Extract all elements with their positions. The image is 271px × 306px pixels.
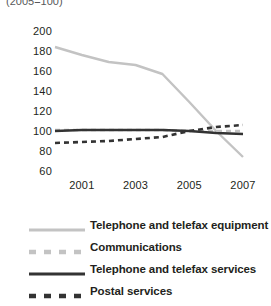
legend-item: Communications <box>0 236 271 258</box>
legend-item: Postal services <box>0 280 271 302</box>
legend-label: Telephone and telefax services <box>90 263 256 275</box>
light-dashed-swatch <box>29 243 85 252</box>
chart-container: (2005=100) 6080100120140160180200 200120… <box>0 0 271 306</box>
series-line <box>55 47 243 157</box>
chart-subtitle: (2005=100) <box>6 0 63 7</box>
dark-solid-swatch <box>29 265 85 274</box>
legend-label: Telephone and telefax equipment <box>90 219 268 231</box>
light-solid-swatch <box>29 221 85 230</box>
legend-label: Postal services <box>90 285 172 297</box>
legend-item: Telephone and telefax equipment <box>0 214 271 236</box>
x-axis-ticks: 2001200320052007 <box>0 179 271 199</box>
legend-item: Telephone and telefax services <box>0 258 271 280</box>
x-axis-tick-label: 2007 <box>230 179 255 191</box>
dark-dashed-swatch <box>29 287 85 296</box>
plot-svg <box>0 16 271 196</box>
x-axis-tick-label: 2003 <box>123 179 148 191</box>
x-axis-tick-label: 2001 <box>69 179 94 191</box>
plot-area: 6080100120140160180200 2001200320052007 <box>0 16 271 196</box>
chart-legend: Telephone and telefax equipmentCommunica… <box>0 214 271 302</box>
legend-label: Communications <box>90 241 182 253</box>
x-axis-tick-label: 2005 <box>177 179 202 191</box>
